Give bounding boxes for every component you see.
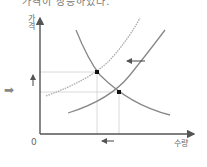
shifted-supply-curve — [46, 18, 140, 96]
supply-demand-diagram — [0, 0, 207, 167]
original-supply-curve — [68, 30, 165, 113]
new-equilibrium-point — [95, 70, 99, 74]
original-equilibrium-point — [117, 90, 121, 94]
